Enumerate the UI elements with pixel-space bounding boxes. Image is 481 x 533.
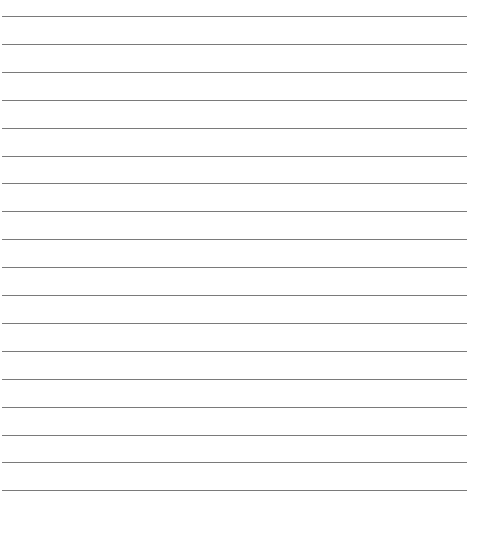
ruled-line bbox=[2, 379, 467, 380]
ruled-line bbox=[2, 323, 467, 324]
ruled-line bbox=[2, 211, 467, 212]
ruled-line bbox=[2, 267, 467, 268]
ruled-line bbox=[2, 435, 467, 436]
ruled-line bbox=[2, 490, 467, 491]
ruled-line bbox=[2, 128, 467, 129]
ruled-line bbox=[2, 295, 467, 296]
ruled-line bbox=[2, 16, 467, 17]
ruled-line bbox=[2, 351, 467, 352]
ruled-line bbox=[2, 72, 467, 73]
lined-paper-sheet bbox=[0, 0, 481, 533]
ruled-line bbox=[2, 44, 467, 45]
ruled-line bbox=[2, 183, 467, 184]
ruled-line bbox=[2, 239, 467, 240]
ruled-line bbox=[2, 100, 467, 101]
ruled-line bbox=[2, 407, 467, 408]
ruled-line bbox=[2, 462, 467, 463]
ruled-line bbox=[2, 156, 467, 157]
